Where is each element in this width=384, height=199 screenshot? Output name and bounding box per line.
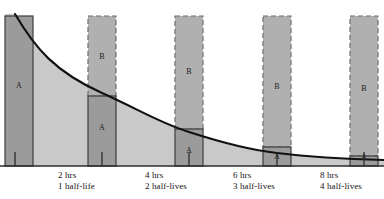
half-life-decay-chart: A B A B A B A B A 2 hrs 1 half-life 4 hr… bbox=[0, 0, 384, 199]
axis-label-8hrs: 8 hrs 4 half-lives bbox=[320, 170, 362, 191]
bar-label-a-4hrs: A bbox=[186, 146, 192, 155]
axis-label-4hrs: 4 hrs 2 half-lives bbox=[145, 170, 187, 191]
bar-label-a-2hrs: A bbox=[99, 123, 105, 132]
bar-label-b-8hrs: B bbox=[361, 84, 367, 93]
axis-label-2hrs: 2 hrs 1 half-life bbox=[58, 170, 95, 191]
axis-label-8hrs-halflives: 4 half-lives bbox=[320, 181, 362, 192]
bar-a-0hrs bbox=[5, 16, 33, 166]
bar-label-b-6hrs: B bbox=[274, 82, 280, 91]
bar-label-a-0hrs: A bbox=[16, 81, 22, 90]
axis-label-4hrs-halflives: 2 half-lives bbox=[145, 181, 187, 192]
axis-label-6hrs-halflives: 3 half-lives bbox=[233, 181, 275, 192]
axis-label-4hrs-hours: 4 hrs bbox=[145, 170, 187, 181]
axis-label-8hrs-hours: 8 hrs bbox=[320, 170, 362, 181]
axis-label-6hrs-hours: 6 hrs bbox=[233, 170, 275, 181]
bar-label-b-2hrs: B bbox=[99, 52, 105, 61]
axis-label-2hrs-hours: 2 hrs bbox=[58, 170, 95, 181]
bar-label-a-8hrs: A bbox=[361, 153, 367, 162]
bar-label-b-4hrs: B bbox=[186, 67, 192, 76]
axis-label-6hrs: 6 hrs 3 half-lives bbox=[233, 170, 275, 191]
axis-label-2hrs-halflives: 1 half-life bbox=[58, 181, 95, 192]
bar-label-a-6hrs: A bbox=[274, 152, 280, 161]
